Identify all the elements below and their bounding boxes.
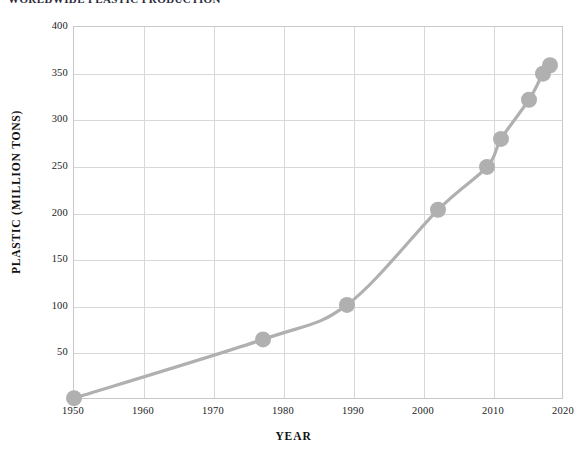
data-point-marker [430, 202, 446, 218]
x-axis-tick-label: 1980 [253, 405, 313, 416]
data-point-marker [521, 92, 537, 108]
y-axis-tick-label: 100 [4, 300, 68, 311]
y-axis-tick-label: 50 [4, 346, 68, 357]
x-axis-tick-labels: 19501960197019801990200020102020 [0, 405, 587, 421]
data-point-marker [339, 297, 355, 313]
y-axis-title: PLASTIC (MILLION TONS) [10, 92, 22, 292]
data-point-marker [255, 331, 271, 347]
data-point-marker [493, 131, 509, 147]
x-axis-tick-label: 1950 [43, 405, 103, 416]
x-axis-tick-label: 1960 [113, 405, 173, 416]
x-axis-tick-label: 1970 [183, 405, 243, 416]
data-point-marker [542, 57, 558, 73]
x-axis-tick-label: 2020 [533, 405, 587, 416]
data-series-line [74, 27, 564, 400]
y-axis-tick-label: 400 [4, 20, 68, 31]
plot-area [73, 26, 563, 399]
series-line-path [74, 65, 550, 398]
chart-container: WORLDWIDE PLASTIC PRODUCTION 50100150200… [0, 0, 587, 449]
x-axis-tick-label: 1990 [323, 405, 383, 416]
x-axis-tick-label: 2000 [393, 405, 453, 416]
x-axis-tick-label: 2010 [463, 405, 523, 416]
y-axis-tick-label: 350 [4, 67, 68, 78]
data-point-marker [66, 390, 82, 406]
x-axis-title: YEAR [0, 430, 587, 442]
data-point-marker [479, 159, 495, 175]
